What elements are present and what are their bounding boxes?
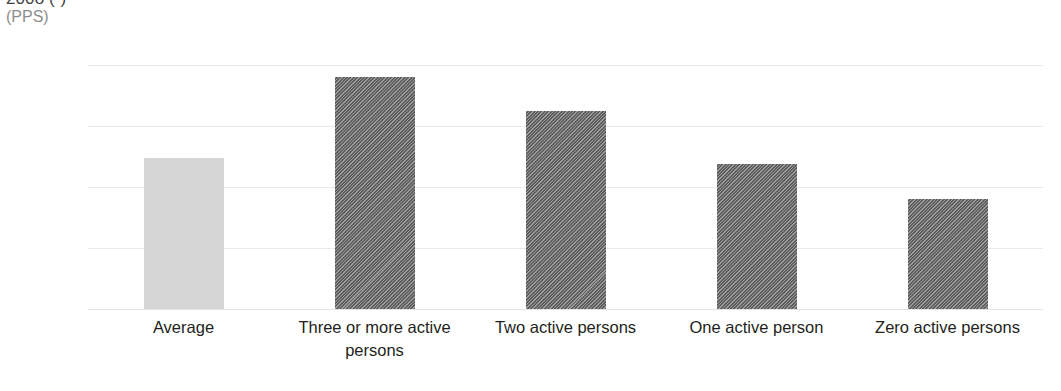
bar [335, 77, 415, 309]
x-axis-label: Average [94, 316, 273, 339]
bar-series [88, 65, 1043, 309]
x-axis-label: Zero active persons [858, 316, 1037, 339]
bar [908, 199, 988, 309]
x-axis-label: Three or more active persons [285, 316, 464, 362]
bar [144, 158, 224, 309]
gridline-0 [88, 309, 1043, 310]
bar-chart: 2008 (¹) (PPS) 010 00020 00030 00040 000… [0, 0, 1061, 391]
x-axis-label: One active person [667, 316, 846, 339]
bar [526, 111, 606, 309]
bar [717, 164, 797, 309]
x-axis-label: Two active persons [476, 316, 655, 339]
x-axis-labels: AverageThree or more active personsTwo a… [88, 316, 1043, 376]
plot-area: 010 00020 00030 00040 000 [88, 65, 1043, 309]
chart-unit-label: (PPS) [6, 8, 49, 26]
